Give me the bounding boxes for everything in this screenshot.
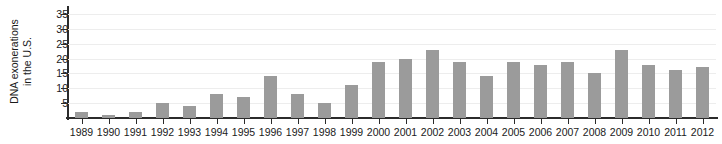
x-tick-label-1993: 1993 bbox=[178, 126, 201, 138]
x-tick-mark-1996 bbox=[271, 119, 272, 124]
bar-2010 bbox=[642, 65, 655, 119]
x-tick-label-1994: 1994 bbox=[205, 126, 228, 138]
x-tick-label-1996: 1996 bbox=[259, 126, 282, 138]
x-tick-label-1990: 1990 bbox=[97, 126, 120, 138]
dna-exonerations-bar-chart: DNA exonerations in the U.S. 51015202530… bbox=[0, 0, 722, 144]
x-tick-label-1995: 1995 bbox=[232, 126, 255, 138]
x-tick-mark-2008 bbox=[595, 119, 596, 124]
bar-1993 bbox=[183, 106, 196, 118]
bar-1992 bbox=[156, 103, 169, 118]
bar-2005 bbox=[507, 62, 520, 118]
x-tick-label-1998: 1998 bbox=[313, 126, 336, 138]
bar-1995 bbox=[237, 97, 250, 118]
x-tick-mark-2009 bbox=[622, 119, 623, 124]
x-tick-mark-2001 bbox=[406, 119, 407, 124]
x-tick-label-2010: 2010 bbox=[637, 126, 660, 138]
x-tick-mark-2003 bbox=[460, 119, 461, 124]
bar-2001 bbox=[399, 59, 412, 118]
bar-2009 bbox=[615, 50, 628, 118]
x-tick-mark-1999 bbox=[352, 119, 353, 124]
x-tick-mark-2011 bbox=[676, 119, 677, 124]
x-axis-tick-labels: 1989199019911992199319941995199619971998… bbox=[68, 119, 716, 144]
bar-1994 bbox=[210, 94, 223, 118]
bar-2000 bbox=[372, 62, 385, 118]
x-tick-mark-1991 bbox=[136, 119, 137, 124]
x-tick-mark-1989 bbox=[82, 119, 83, 124]
x-tick-mark-1992 bbox=[163, 119, 164, 124]
bar-1991 bbox=[129, 112, 142, 118]
y-axis-title-line-2: in the U.S. bbox=[20, 19, 33, 104]
x-tick-label-2000: 2000 bbox=[367, 126, 390, 138]
x-tick-label-1997: 1997 bbox=[286, 126, 309, 138]
bar-1989 bbox=[75, 112, 88, 118]
x-tick-mark-2000 bbox=[379, 119, 380, 124]
x-tick-mark-2005 bbox=[514, 119, 515, 124]
bar-2003 bbox=[453, 62, 466, 118]
bar-2006 bbox=[534, 65, 547, 119]
x-tick-mark-1995 bbox=[244, 119, 245, 124]
x-tick-label-1991: 1991 bbox=[124, 126, 147, 138]
bar-1999 bbox=[345, 85, 358, 118]
x-tick-label-1992: 1992 bbox=[151, 126, 174, 138]
x-tick-mark-1998 bbox=[325, 119, 326, 124]
x-tick-label-2012: 2012 bbox=[691, 126, 714, 138]
x-tick-mark-2012 bbox=[703, 119, 704, 124]
x-tick-mark-2007 bbox=[568, 119, 569, 124]
x-tick-label-2003: 2003 bbox=[448, 126, 471, 138]
bar-1998 bbox=[318, 103, 331, 118]
y-axis-title-line-1: DNA exonerations bbox=[8, 19, 21, 104]
x-tick-label-2009: 2009 bbox=[610, 126, 633, 138]
bar-2002 bbox=[426, 50, 439, 118]
bar-2004 bbox=[480, 76, 493, 118]
x-tick-mark-1997 bbox=[298, 119, 299, 124]
bar-2007 bbox=[561, 62, 574, 118]
bar-series bbox=[68, 8, 716, 118]
bar-1996 bbox=[264, 76, 277, 118]
x-tick-label-1999: 1999 bbox=[340, 126, 363, 138]
x-tick-label-2008: 2008 bbox=[583, 126, 606, 138]
x-tick-label-2001: 2001 bbox=[394, 126, 417, 138]
bar-1990 bbox=[102, 115, 115, 118]
x-tick-mark-2010 bbox=[649, 119, 650, 124]
bar-1997 bbox=[291, 94, 304, 118]
bar-2011 bbox=[669, 70, 682, 118]
x-tick-label-2006: 2006 bbox=[529, 126, 552, 138]
bar-2012 bbox=[696, 67, 709, 118]
x-tick-mark-2006 bbox=[541, 119, 542, 124]
x-tick-label-2005: 2005 bbox=[502, 126, 525, 138]
x-tick-label-2011: 2011 bbox=[664, 126, 687, 138]
y-axis-title: DNA exonerations in the U.S. bbox=[0, 0, 40, 122]
x-tick-mark-1990 bbox=[109, 119, 110, 124]
x-tick-label-2004: 2004 bbox=[475, 126, 498, 138]
x-tick-mark-2004 bbox=[487, 119, 488, 124]
x-tick-mark-2002 bbox=[433, 119, 434, 124]
x-tick-mark-1993 bbox=[190, 119, 191, 124]
x-tick-label-2002: 2002 bbox=[421, 126, 444, 138]
plot-area bbox=[68, 8, 716, 118]
x-tick-label-2007: 2007 bbox=[556, 126, 579, 138]
bar-2008 bbox=[588, 73, 601, 118]
x-tick-mark-1994 bbox=[217, 119, 218, 124]
x-tick-label-1989: 1989 bbox=[70, 126, 93, 138]
